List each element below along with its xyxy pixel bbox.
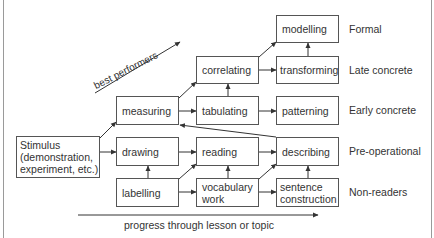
box-correlating-label: correlating xyxy=(202,64,251,76)
box-labelling-label: labelling xyxy=(122,187,161,199)
box-stimulus-line2: (demonstration, xyxy=(20,151,93,163)
stage-label-pre-operational: Pre-operational xyxy=(349,145,421,157)
box-tabulating: tabulating xyxy=(196,96,259,125)
stage-label-non-readers: Non-readers xyxy=(349,186,407,198)
box-modelling-label: modelling xyxy=(282,23,327,35)
box-measuring: measuring xyxy=(116,96,179,125)
box-vocabulary-work: vocabulary work xyxy=(196,178,259,207)
box-sentence-line2: construction xyxy=(280,193,337,205)
box-transforming-label: transforming xyxy=(280,64,338,76)
stage-label-formal: Formal xyxy=(349,23,382,35)
stage-label-late-concrete: Late concrete xyxy=(349,64,413,76)
box-drawing-label: drawing xyxy=(122,146,159,158)
stage-label-early-concrete: Early concrete xyxy=(349,104,416,116)
box-vocabulary-line1: vocabulary xyxy=(202,181,253,193)
box-measuring-label: measuring xyxy=(122,105,171,117)
box-vocabulary-line2: work xyxy=(202,193,224,205)
box-reading: reading xyxy=(196,137,259,166)
box-describing: describing xyxy=(276,137,339,166)
box-correlating: correlating xyxy=(196,56,259,84)
box-transforming: transforming xyxy=(276,56,339,84)
box-stimulus-line3: experiment, etc.) xyxy=(20,163,98,175)
box-patterning-label: patterning xyxy=(282,105,329,117)
box-stimulus-line1: Stimulus xyxy=(20,139,60,151)
box-drawing: drawing xyxy=(116,137,179,166)
progress-label: progress through lesson or topic xyxy=(124,219,274,231)
box-patterning: patterning xyxy=(276,96,339,125)
box-sentence-construction: sentence construction xyxy=(276,178,339,207)
box-labelling: labelling xyxy=(116,178,179,207)
box-sentence-line1: sentence xyxy=(280,181,323,193)
box-stimulus: Stimulus (demonstration, experiment, etc… xyxy=(16,136,100,178)
box-describing-label: describing xyxy=(282,146,330,158)
box-tabulating-label: tabulating xyxy=(202,105,248,117)
box-reading-label: reading xyxy=(202,146,237,158)
box-modelling: modelling xyxy=(276,15,339,43)
